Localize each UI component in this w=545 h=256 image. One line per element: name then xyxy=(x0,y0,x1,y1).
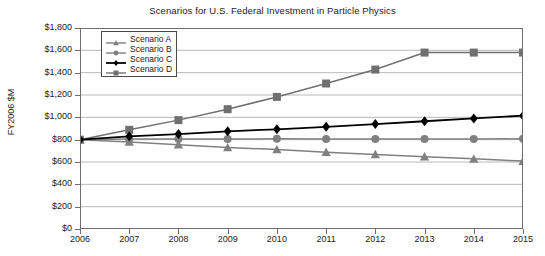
y-axis-tick-label: $1,400 xyxy=(10,67,72,77)
legend-label: Scenario C xyxy=(130,54,172,64)
legend-item-scenario-c[interactable]: Scenario C xyxy=(105,54,172,64)
x-axis-tick-label: 2014 xyxy=(448,234,500,244)
x-axis-tick-label: 2015 xyxy=(497,234,545,244)
legend-label: Scenario B xyxy=(130,44,172,54)
x-axis-tick-label: 2009 xyxy=(202,234,254,244)
y-axis-tick-label: $0 xyxy=(10,223,72,233)
x-axis-tick-label: 2012 xyxy=(349,234,401,244)
y-axis-tick-label: $1,000 xyxy=(10,111,72,121)
chart-legend: Scenario AScenario BScenario CScenario D xyxy=(101,31,177,77)
x-axis-tick-label: 2011 xyxy=(300,234,352,244)
x-axis-tick-label: 2006 xyxy=(54,234,106,244)
y-axis-tick-label: $800 xyxy=(10,134,72,144)
legend-item-scenario-a[interactable]: Scenario A xyxy=(105,34,172,44)
legend-label: Scenario A xyxy=(130,34,171,44)
y-axis-tick-label: $400 xyxy=(10,178,72,188)
legend-marker-triangle-icon xyxy=(105,34,127,44)
y-axis-tick-label: $1,600 xyxy=(10,44,72,54)
legend-marker-diamond-icon xyxy=(105,54,127,64)
legend-item-scenario-d[interactable]: Scenario D xyxy=(105,64,172,74)
legend-label: Scenario D xyxy=(130,64,172,74)
y-axis-tick-label: $1,800 xyxy=(10,22,72,32)
x-axis-tick-label: 2007 xyxy=(103,234,155,244)
chart-title: Scenarios for U.S. Federal Investment in… xyxy=(0,5,545,16)
chart-container: Scenarios for U.S. Federal Investment in… xyxy=(0,0,545,256)
legend-marker-square-icon xyxy=(105,64,127,74)
y-axis-tick-label: $600 xyxy=(10,156,72,166)
legend-marker-circle-icon xyxy=(105,44,127,54)
x-axis-tick-label: 2008 xyxy=(152,234,204,244)
x-axis-tick-label: 2013 xyxy=(399,234,451,244)
y-axis-tick-label: $200 xyxy=(10,201,72,211)
x-axis-tick-label: 2010 xyxy=(251,234,303,244)
legend-item-scenario-b[interactable]: Scenario B xyxy=(105,44,172,54)
y-axis-tick-label: $1,200 xyxy=(10,89,72,99)
